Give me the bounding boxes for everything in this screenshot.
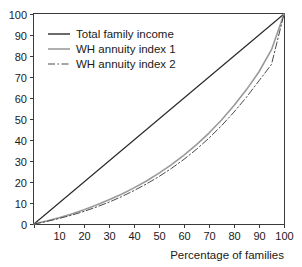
y-axis-tick-labels: 0102030405060708090100: [9, 9, 27, 231]
y-tick-label: 90: [15, 30, 27, 42]
y-tick-label: 20: [15, 177, 27, 189]
lorenz-curve-chart: 0102030405060708090100 10203040506070809…: [0, 0, 302, 267]
x-tick-label: 60: [178, 230, 190, 242]
y-tick-label: 0: [21, 219, 27, 231]
y-tick-label: 40: [15, 135, 27, 147]
x-tick-label: 50: [153, 230, 165, 242]
x-tick-label: 100: [275, 230, 293, 242]
x-tick-label: 40: [128, 230, 140, 242]
legend-label: Total family income: [76, 28, 174, 40]
y-tick-label: 10: [15, 198, 27, 210]
x-tick-label: 80: [228, 230, 240, 242]
y-tick-label: 70: [15, 72, 27, 84]
x-tick-label: 70: [203, 230, 215, 242]
legend-label: WH annuity index 2: [76, 58, 176, 70]
y-tick-label: 50: [15, 114, 27, 126]
x-tick-label: 90: [253, 230, 265, 242]
x-tick-label: 10: [53, 230, 65, 242]
y-tick-label: 80: [15, 51, 27, 63]
x-tick-label: 30: [103, 230, 115, 242]
chart-legend: Total family incomeWH annuity index 1WH …: [48, 28, 176, 70]
y-tick-label: 60: [15, 93, 27, 105]
chart-svg: 0102030405060708090100 10203040506070809…: [0, 0, 302, 267]
x-axis-tick-labels: 102030405060708090100: [53, 230, 293, 242]
x-tick-label: 20: [78, 230, 90, 242]
x-axis-title: Percentage of families: [170, 249, 284, 261]
y-tick-label: 100: [9, 9, 27, 21]
y-tick-label: 30: [15, 156, 27, 168]
legend-label: WH annuity index 1: [76, 43, 176, 55]
